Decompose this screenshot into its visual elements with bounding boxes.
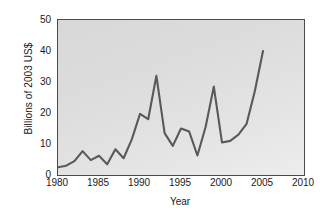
y-tick-label-30: 30 bbox=[25, 77, 51, 87]
x-tick-label-2010: 2010 bbox=[283, 178, 323, 188]
y-tick-label-10: 10 bbox=[25, 139, 51, 149]
y-tick-label-50: 50 bbox=[25, 15, 51, 25]
y-tick-label-40: 40 bbox=[25, 46, 51, 56]
x-tick-label-2000: 2000 bbox=[201, 178, 241, 188]
x-tick-label-1995: 1995 bbox=[160, 178, 200, 188]
x-axis-title: Year bbox=[57, 196, 303, 207]
x-tick-label-2005: 2005 bbox=[242, 178, 282, 188]
chart-figure: Billions of 2003 US$ 50 40 30 20 10 0 19… bbox=[0, 0, 333, 216]
x-tick-label-1990: 1990 bbox=[119, 178, 159, 188]
y-tick-label-20: 20 bbox=[25, 108, 51, 118]
x-tick-label-1985: 1985 bbox=[78, 178, 118, 188]
x-tick-label-1980: 1980 bbox=[37, 178, 77, 188]
data-series-line bbox=[58, 51, 263, 167]
plot-area bbox=[57, 19, 305, 176]
data-line-svg bbox=[58, 20, 304, 175]
